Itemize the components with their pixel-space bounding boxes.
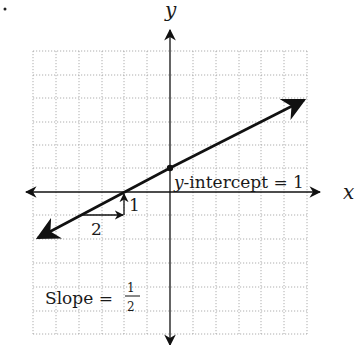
- graphed-line-left: [38, 168, 170, 238]
- slope-label: Slope =: [45, 288, 113, 308]
- graphed-line: [170, 100, 304, 168]
- y-intercept-point: [167, 165, 173, 171]
- y-axis-label: y: [164, 0, 177, 22]
- y-intercept-label-rest: -intercept = 1: [184, 172, 304, 192]
- x-axis-label: x: [343, 180, 354, 204]
- run-label: 2: [91, 219, 102, 239]
- slope-denominator: 2: [127, 300, 135, 314]
- y-intercept-label-y: y: [173, 172, 184, 192]
- stray-mark: [4, 8, 7, 11]
- y-intercept-label: y-intercept = 1: [173, 172, 304, 192]
- rise-label: 1: [129, 195, 140, 215]
- slope-numerator: 1: [127, 281, 135, 295]
- coordinate-plane: y x 2 1 y-intercept = 1 Slope = 1 2: [0, 0, 359, 345]
